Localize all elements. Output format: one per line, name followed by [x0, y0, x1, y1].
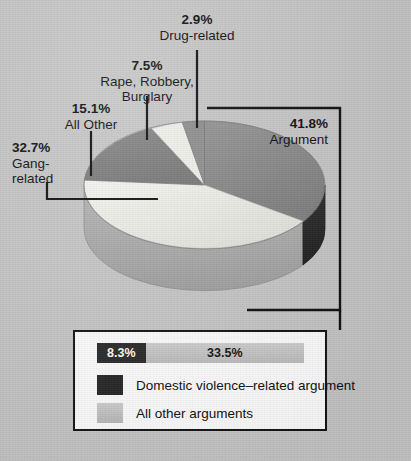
- label-drug-related-pct: 2.9%: [141, 12, 253, 28]
- label-all-other-name: All Other: [33, 117, 149, 133]
- legend-box: 8.3% 33.5% Domestic violence–related arg…: [73, 330, 327, 431]
- label-argument-pct: 41.8%: [228, 116, 328, 132]
- legend-swatch-light: [97, 403, 123, 423]
- legend-label-domestic-violence: Domestic violence–related argument: [136, 378, 355, 393]
- label-all-other-pct: 15.1%: [33, 101, 149, 117]
- label-all-other: 15.1% All Other: [33, 101, 149, 132]
- label-drug-related: 2.9% Drug-related: [141, 12, 253, 43]
- legend-swatch-dark: [97, 375, 123, 395]
- label-drug-related-name: Drug-related: [141, 28, 253, 44]
- label-argument-name: Argument: [228, 132, 328, 148]
- label-gang-related-line2: related: [12, 171, 102, 187]
- label-gang-related-pct: 32.7%: [12, 140, 102, 156]
- legend-item-domestic-violence: Domestic violence–related argument: [97, 375, 355, 395]
- chart-figure: 2.9% Drug-related 7.5% Rape, Robbery, Bu…: [0, 0, 411, 461]
- label-gang-related-line1: Gang-: [12, 156, 102, 172]
- breakout-segment-all-other-arguments: 33.5%: [146, 343, 304, 363]
- label-argument: 41.8% Argument: [228, 116, 328, 147]
- label-rape-robbery-burglary-line1: Rape, Robbery,: [87, 74, 207, 90]
- legend-label-all-other-arguments: All other arguments: [136, 406, 253, 421]
- label-rape-robbery-burglary-pct: 7.5%: [87, 58, 207, 74]
- breakout-segment-domestic-violence: 8.3%: [97, 343, 146, 363]
- legend-item-all-other-arguments: All other arguments: [97, 403, 253, 423]
- argument-breakout-bar: 8.3% 33.5%: [97, 343, 304, 363]
- label-rape-robbery-burglary: 7.5% Rape, Robbery, Burglary: [87, 58, 207, 105]
- label-gang-related: 32.7% Gang- related: [12, 140, 102, 187]
